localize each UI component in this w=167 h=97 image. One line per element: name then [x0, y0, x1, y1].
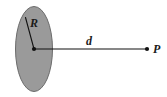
disk-center-dot — [32, 47, 36, 51]
physics-diagram-canvas: R d P — [0, 0, 167, 97]
point-label: P — [153, 42, 161, 56]
field-point-dot — [145, 47, 149, 51]
distance-label: d — [86, 34, 93, 48]
figure-container: R d P — [0, 0, 167, 97]
radius-label: R — [29, 16, 38, 30]
